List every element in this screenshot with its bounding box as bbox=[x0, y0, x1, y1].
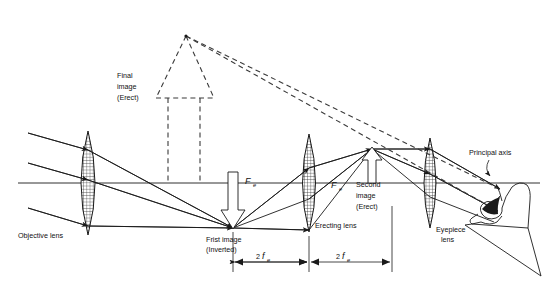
final-image-label-line1: Final bbox=[117, 71, 133, 80]
eyepiece-lens-label-line2: lens bbox=[441, 235, 455, 244]
first-image-label: Frist image (Inverted) bbox=[206, 235, 242, 254]
optical-diagram: Final image (Erect) Frist image (Inverte… bbox=[0, 0, 557, 284]
second-image-label-line2: image bbox=[356, 191, 376, 200]
focal-label-left-main: F bbox=[245, 176, 251, 186]
dim-right-prefix: 2 bbox=[336, 252, 340, 261]
principal-axis-label: Principal axis bbox=[469, 148, 512, 157]
second-image-label-line1: Second bbox=[356, 180, 380, 189]
final-image-label-line3: (Erect) bbox=[117, 93, 139, 102]
focal-label-left-sub: e bbox=[253, 182, 256, 188]
focal-label-right-main: F bbox=[331, 180, 337, 190]
erecting-lens-label: Erecting lens bbox=[315, 221, 357, 230]
objective-lens-label: Objective lens bbox=[18, 231, 64, 240]
second-image-label-line3: (Erect) bbox=[356, 202, 378, 211]
focal-label-right-sub: e bbox=[339, 186, 342, 192]
dim-left-prefix: 2 bbox=[256, 252, 260, 261]
first-image-label-line1: Frist image bbox=[206, 235, 242, 244]
canvas-background bbox=[0, 0, 557, 284]
first-image-label-line2: (Inverted) bbox=[206, 245, 237, 254]
final-image-label-line2: image bbox=[117, 82, 137, 91]
dim-left-sub: e bbox=[267, 257, 270, 263]
eyepiece-lens-label-line1: Eyepiece bbox=[436, 225, 466, 234]
dim-right-sub: e bbox=[347, 257, 350, 263]
